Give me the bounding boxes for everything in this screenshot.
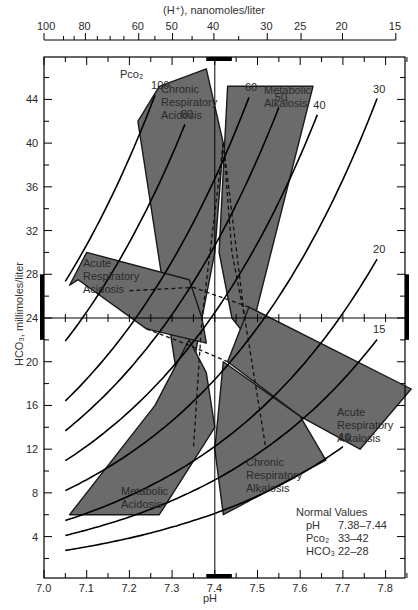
region-label: Acute	[337, 406, 365, 418]
x-tick-label: 7.6	[292, 582, 307, 594]
y-tick-label: 24	[26, 312, 38, 324]
top-tick-label: 30	[260, 20, 272, 32]
isobar-label: 20	[373, 243, 385, 255]
normal-value: 22–28	[338, 545, 369, 558]
region-label: Respiratory	[246, 469, 303, 481]
top-tick-label: 100	[37, 20, 55, 32]
normal-name: Pco₂	[306, 532, 338, 545]
normal-name: pH	[306, 519, 338, 532]
region-label: Respiratory	[337, 419, 394, 431]
top-tick-label: 20	[335, 20, 347, 32]
y-tick-label: 8	[32, 487, 38, 499]
isobar-label: 30	[373, 83, 385, 95]
y-tick-label: 28	[26, 268, 38, 280]
normal-ph-bar-bottom	[206, 574, 232, 578]
region-label: Acute	[83, 257, 111, 269]
isobar-label: 40	[313, 99, 325, 111]
x-tick-label: 7.3	[164, 582, 179, 594]
isobar-label: 60	[245, 81, 257, 93]
isobar-label: 15	[373, 323, 385, 335]
region-label: Acidosis	[83, 283, 124, 295]
normal-hco3-bar-right	[405, 274, 409, 340]
region-label: Alkalosis	[246, 482, 290, 494]
normal-row-hco3: HCO₃22–28	[296, 545, 387, 558]
x-tick-label: 7.2	[121, 582, 136, 594]
top-tick-label: 40	[207, 20, 219, 32]
x-tick-label: 7.8	[378, 582, 393, 594]
normal-value: 7.38–7.44	[338, 519, 387, 532]
normal-values-title: Normal Values	[296, 506, 387, 519]
top-tick-label: 15	[389, 20, 401, 32]
region-label: Chronic	[161, 83, 199, 95]
region-label: Alkalosis	[337, 432, 381, 444]
y-axis-label: HCO₃, millimoles/liter	[13, 249, 25, 379]
y-tick-label: 4	[32, 531, 38, 543]
y-tick-label: 44	[26, 93, 38, 105]
region-label: Alkalosis	[264, 97, 308, 109]
top-tick-label: 25	[294, 20, 306, 32]
acid-base-nomogram: 1008060504030201510Pco₂ 7.07.17.27.37.47…	[0, 0, 418, 610]
x-tick-label: 7.0	[36, 582, 51, 594]
region-label: Metabolic	[121, 485, 169, 497]
region-label: Metabolic	[264, 84, 312, 96]
normal-name: HCO₃	[306, 545, 338, 558]
region-label: Acidosis	[121, 498, 162, 510]
normal-ph-bar-top	[206, 57, 232, 61]
top-tick-label: 80	[78, 20, 90, 32]
x-axis-label: pH	[203, 592, 217, 604]
normal-hco3-bar-left	[40, 274, 44, 340]
y-tick-label: 36	[26, 181, 38, 193]
top-tick-label: 50	[166, 20, 178, 32]
normal-row-ph: pH7.38–7.44	[296, 519, 387, 532]
y-tick-label: 40	[26, 137, 38, 149]
region-label: Acidosis	[161, 109, 202, 121]
x-tick-label: 7.1	[79, 582, 94, 594]
normal-value: 33–42	[338, 532, 369, 545]
y-tick-label: 32	[26, 225, 38, 237]
top-axis-label: (H⁺), nanomoles/liter	[163, 4, 265, 17]
normal-row-pco2: Pco₂33–42	[296, 532, 387, 545]
y-tick-label: 12	[26, 443, 38, 455]
y-tick-label: 20	[26, 356, 38, 368]
region-label: Respiratory	[83, 270, 140, 282]
normal-values-box: Normal Values pH7.38–7.44 Pco₂33–42 HCO₃…	[296, 506, 387, 558]
region-label: Respiratory	[161, 96, 218, 108]
pco2-axis-label: Pco₂	[120, 68, 143, 80]
y-tick-label: 16	[26, 399, 38, 411]
x-tick-label: 7.7	[335, 582, 350, 594]
x-tick-label: 7.5	[250, 582, 265, 594]
region-label: Chronic	[246, 456, 284, 468]
top-tick-label: 60	[132, 20, 144, 32]
